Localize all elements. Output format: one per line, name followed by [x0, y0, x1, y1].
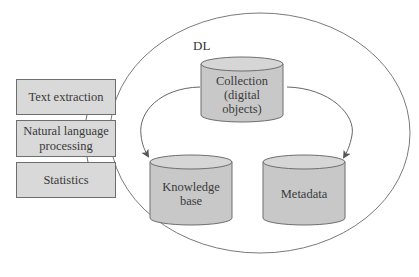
dl-label: DL: [193, 38, 210, 54]
arrow-collection-to-knowledge-base: [141, 87, 200, 156]
knowledge-base-label-line: base: [150, 194, 232, 208]
tool-label-line: processing: [39, 139, 92, 154]
tool-label-line: Natural language: [23, 124, 109, 139]
collection-label: Collection (digital objects): [201, 74, 283, 116]
tool-box-nlp: Natural language processing: [16, 120, 116, 157]
collection-label-line: Collection: [201, 74, 283, 88]
tool-label: Text extraction: [28, 90, 103, 105]
tool-label: Statistics: [43, 173, 88, 188]
tool-box-statistics: Statistics: [16, 162, 116, 198]
collection-label-line: (digital: [201, 88, 283, 102]
arrow-collection-to-metadata: [287, 87, 352, 157]
tool-box-text-extraction: Text extraction: [16, 79, 116, 115]
knowledge-base-label: Knowledge base: [150, 180, 232, 208]
knowledge-base-label-line: Knowledge: [150, 180, 232, 194]
collection-label-line: objects): [201, 102, 283, 116]
metadata-label: Metadata: [263, 187, 345, 201]
metadata-label-line: Metadata: [263, 187, 345, 201]
